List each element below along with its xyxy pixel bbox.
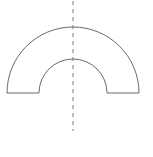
half-annulus-diagram: [0, 0, 153, 157]
figure-canvas: [0, 0, 153, 157]
